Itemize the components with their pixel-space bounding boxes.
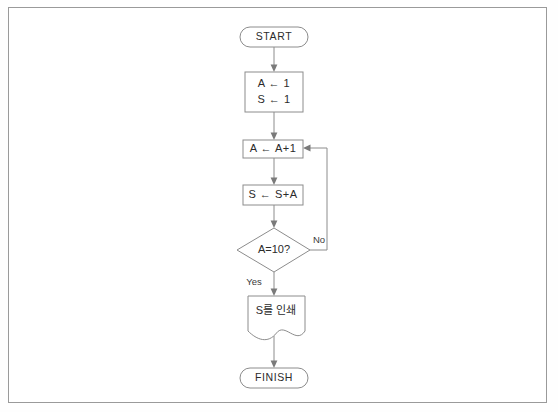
node-increment-label: A ← A+1: [250, 142, 297, 154]
flowchart-diagram: START A ← 1 S ← 1 A ← A+1 S ← S+A A=10? …: [0, 0, 558, 412]
node-accumulate-label: S ← S+A: [248, 188, 297, 200]
node-start-label: START: [256, 30, 292, 42]
edge-init-to-increment: [271, 112, 278, 140]
edge-print-to-finish: [271, 336, 278, 368]
node-print-document: S를 인쇄: [248, 296, 305, 340]
node-print-label: S를 인쇄: [256, 304, 296, 316]
node-increment-process: A ← A+1: [243, 140, 303, 158]
edge-label-no: No: [313, 234, 325, 245]
node-decision-diamond: A=10?: [237, 228, 310, 272]
edge-increment-to-accumulate: [271, 158, 278, 185]
node-start-terminator: START: [240, 27, 308, 47]
node-initialize-label-a: A ← 1: [258, 77, 290, 89]
node-decision-label: A=10?: [258, 243, 290, 255]
flowchart-canvas: START A ← 1 S ← 1 A ← A+1 S ← S+A A=10? …: [0, 0, 558, 412]
node-initialize-process: A ← 1 S ← 1: [245, 72, 303, 112]
node-initialize-label-s: S ← 1: [257, 93, 290, 105]
node-finish-label: FINISH: [255, 371, 293, 383]
edge-accumulate-to-decision: [271, 205, 278, 228]
node-accumulate-process: S ← S+A: [243, 185, 303, 205]
edge-label-yes: Yes: [246, 276, 262, 287]
node-finish-terminator: FINISH: [240, 368, 308, 388]
edge-decision-yes-to-print: [271, 272, 278, 296]
edge-start-to-init: [271, 47, 278, 72]
